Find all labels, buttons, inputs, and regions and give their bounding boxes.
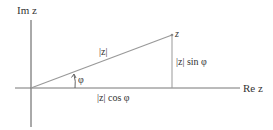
complex-plane-diagram: Im z Re z z |z| |z| sin φ |z| cos φ φ [0,0,273,130]
point-z-label: z [174,28,179,39]
real-axis-label: Re z [243,82,263,94]
vertical-segment-label: |z| sin φ [176,56,207,67]
vector-z [31,35,172,88]
angle-label: φ [78,74,84,85]
horizontal-segment-label: |z| cos φ [97,92,130,103]
imaginary-axis-label: Im z [17,4,37,16]
angle-arrowhead-icon [72,74,77,78]
hypotenuse-label: |z| [99,46,107,57]
